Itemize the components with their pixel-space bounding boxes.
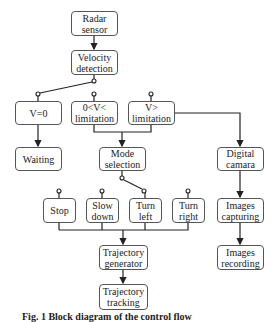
node-turn-right: Turn right <box>172 198 205 223</box>
node-stop: Stop <box>43 198 76 223</box>
node-waiting: Waiting <box>15 147 62 171</box>
node-trajectory-generator: Trajectory generator <box>99 245 148 270</box>
node-radar-sensor: Radar sensor <box>71 11 118 36</box>
figure-caption: Fig. 1 Block diagram of the control flow <box>22 311 192 322</box>
node-v-above: V> limitation <box>128 101 175 125</box>
node-images-recording: Images recording <box>217 245 264 270</box>
node-v-between: 0<V< limitation <box>71 101 118 125</box>
node-turn-left: Turn left <box>129 198 162 223</box>
node-velocity-detection: Velocity detection <box>71 50 118 75</box>
node-v-zero: V=0 <box>15 101 62 125</box>
node-images-capturing: Images capturing <box>217 198 264 223</box>
node-digital-camera: Digital camara <box>217 147 264 171</box>
node-mode-selection: Mode selection <box>99 147 146 171</box>
node-trajectory-tracking: Trajectory tracking <box>99 284 148 310</box>
node-slow-down: Slow down <box>86 198 119 223</box>
